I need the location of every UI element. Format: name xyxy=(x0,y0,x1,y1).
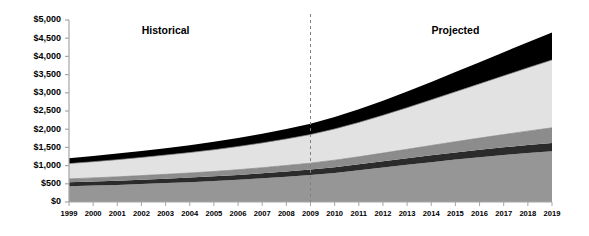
x-axis: 1999200020012002200320042005200620072008… xyxy=(61,202,561,218)
x-axis-tick-label: 2011 xyxy=(351,209,368,218)
x-axis-tick-label: 2003 xyxy=(157,209,174,218)
x-axis-tick-label: 2014 xyxy=(423,209,441,218)
x-axis-tick-label: 2001 xyxy=(109,209,127,218)
x-axis-tick-label: 2012 xyxy=(374,209,391,218)
y-axis-tick-label: $4,000 xyxy=(33,51,61,61)
chart-canvas: $0$500$1,000$1,500$2,000$2,500$3,000$3,5… xyxy=(0,0,589,236)
x-axis-tick-label: 1999 xyxy=(61,209,78,218)
x-axis-tick-label: 2017 xyxy=(495,209,512,218)
x-axis-tick-label: 2009 xyxy=(302,209,319,218)
x-axis-tick-label: 2008 xyxy=(278,209,295,218)
x-axis-tick-label: 2002 xyxy=(133,209,150,218)
y-axis-tick-label: $1,500 xyxy=(33,142,61,152)
x-axis-tick-label: 2004 xyxy=(181,209,199,218)
y-axis-tick-label: $500 xyxy=(41,178,61,188)
y-axis: $0$500$1,000$1,500$2,000$2,500$3,000$3,5… xyxy=(33,14,69,206)
x-axis-tick-label: 2013 xyxy=(399,209,416,218)
x-axis-tick-label: 2006 xyxy=(230,209,247,218)
y-axis-tick-label: $2,000 xyxy=(33,124,61,134)
x-axis-tick-label: 2018 xyxy=(519,209,536,218)
x-axis-tick-label: 2015 xyxy=(447,209,465,218)
y-axis-tick-label: $5,000 xyxy=(33,14,61,24)
y-axis-tick-label: $0 xyxy=(51,196,61,206)
x-axis-tick-label: 2000 xyxy=(85,209,102,218)
y-axis-tick-label: $1,000 xyxy=(33,160,61,170)
x-axis-tick-label: 2010 xyxy=(326,209,343,218)
y-axis-tick-label: $4,500 xyxy=(33,33,61,43)
stacked-area-chart: $0$500$1,000$1,500$2,000$2,500$3,000$3,5… xyxy=(0,0,589,236)
y-axis-tick-label: $3,500 xyxy=(33,69,61,79)
projected-label: Projected xyxy=(431,24,479,36)
x-axis-tick-label: 2016 xyxy=(471,209,488,218)
historical-label: Historical xyxy=(142,24,190,36)
x-axis-tick-label: 2019 xyxy=(544,209,561,218)
x-axis-tick-label: 2005 xyxy=(205,209,223,218)
x-axis-tick-label: 2007 xyxy=(254,209,271,218)
y-axis-tick-label: $2,500 xyxy=(33,105,61,115)
y-axis-tick-label: $3,000 xyxy=(33,87,61,97)
